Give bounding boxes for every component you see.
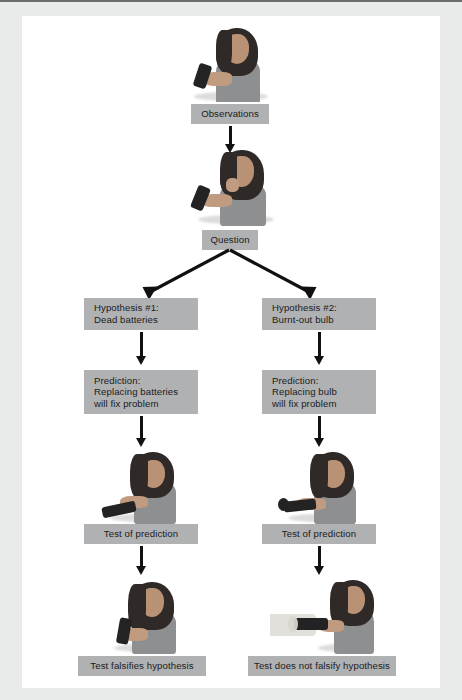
photo-test-2 bbox=[272, 448, 368, 524]
node-result-1[interactable]: Test falsifies hypothesis bbox=[78, 656, 206, 676]
node-hypothesis-1-line1: Hypothesis #1: bbox=[94, 302, 194, 314]
node-test-1[interactable]: Test of prediction bbox=[84, 524, 198, 544]
node-test-2[interactable]: Test of prediction bbox=[262, 524, 376, 544]
node-prediction-1[interactable]: Prediction: Replacing batteries will fix… bbox=[84, 370, 198, 414]
photo-result-1 bbox=[96, 574, 190, 654]
node-question[interactable]: Question bbox=[202, 230, 258, 250]
arrow-hypothesis-1-to-prediction-1-head bbox=[136, 356, 146, 365]
diagram-canvas: Observations Question bbox=[22, 16, 440, 688]
arrow-hypothesis-1-to-prediction-1 bbox=[140, 332, 143, 358]
node-prediction-2-line1: Prediction: bbox=[272, 375, 372, 387]
node-prediction-2-line3: will fix problem bbox=[272, 398, 372, 410]
node-test-2-label: Test of prediction bbox=[266, 528, 372, 540]
node-prediction-1-line3: will fix problem bbox=[94, 398, 194, 410]
photo-result-2 bbox=[270, 574, 380, 654]
node-result-2[interactable]: Test does not falsify hypothesis bbox=[248, 656, 396, 676]
arrow-prediction-1-to-test-1-head bbox=[136, 438, 146, 447]
node-prediction-1-line2: Replacing batteries bbox=[94, 386, 194, 398]
arrow-observations-to-question bbox=[229, 126, 232, 146]
photo-observations bbox=[172, 24, 282, 102]
arrow-hypothesis-2-to-prediction-2 bbox=[318, 332, 321, 358]
node-hypothesis-2[interactable]: Hypothesis #2: Burnt-out bulb bbox=[262, 298, 376, 330]
arrow-prediction-2-to-test-2-head bbox=[314, 438, 324, 447]
photo-test-1 bbox=[94, 448, 190, 524]
arrow-prediction-1-to-test-1 bbox=[140, 416, 143, 440]
arrow-hypothesis-2-to-prediction-2-head bbox=[314, 356, 324, 365]
node-result-1-label: Test falsifies hypothesis bbox=[82, 660, 202, 672]
page-background: Observations Question bbox=[0, 0, 462, 700]
node-hypothesis-1[interactable]: Hypothesis #1: Dead batteries bbox=[84, 298, 198, 330]
arrow-test-1-to-result-1 bbox=[140, 546, 143, 568]
node-hypothesis-2-line2: Burnt-out bulb bbox=[272, 314, 372, 326]
node-observations-label: Observations bbox=[195, 108, 265, 120]
node-hypothesis-2-line1: Hypothesis #2: bbox=[272, 302, 372, 314]
node-hypothesis-1-line2: Dead batteries bbox=[94, 314, 194, 326]
node-observations[interactable]: Observations bbox=[191, 104, 269, 124]
node-result-2-label: Test does not falsify hypothesis bbox=[252, 660, 392, 672]
node-test-1-label: Test of prediction bbox=[88, 528, 194, 540]
node-prediction-1-line1: Prediction: bbox=[94, 375, 194, 387]
node-prediction-2-line2: Replacing bulb bbox=[272, 386, 372, 398]
node-question-label: Question bbox=[206, 234, 254, 246]
arrow-prediction-2-to-test-2 bbox=[318, 416, 321, 440]
arrow-question-branch bbox=[22, 248, 440, 304]
photo-question bbox=[174, 144, 288, 226]
node-prediction-2[interactable]: Prediction: Replacing bulb will fix prob… bbox=[262, 370, 376, 414]
arrow-test-2-to-result-2 bbox=[318, 546, 321, 568]
